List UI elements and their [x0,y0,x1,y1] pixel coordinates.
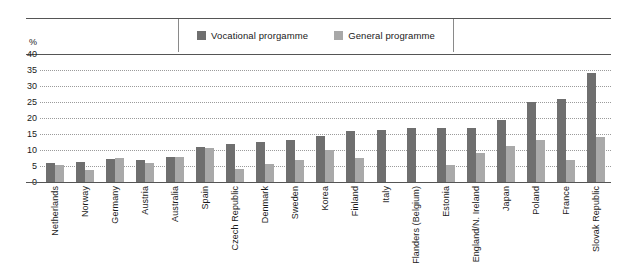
bar-general [175,157,184,182]
x-axis-label: Italy [381,186,390,203]
x-axis-label: Finland [351,186,360,216]
x-axis-label: Austria [141,186,150,215]
bar-vocational [286,140,295,182]
x-label-cell: Italy [371,184,401,276]
bar-general [145,163,154,182]
bar-general [355,158,364,182]
x-label-cell: England/N. Ireland [461,184,491,276]
legend-item-general: General programme [334,30,435,41]
x-axis-label: Czech Republic [231,186,240,250]
y-tick-label-10: 10 [27,146,37,155]
bar-general [506,146,515,182]
bar-general [55,165,64,182]
x-label-cell: Japan [491,184,521,276]
bar-group [130,54,160,182]
x-axis-label: Germany [111,186,120,224]
bar-general [536,140,545,182]
bar-vocational [467,128,476,182]
bar-general [115,158,124,182]
legend-item-vocational: Vocational prorgamme [197,30,308,41]
bar-general [205,148,214,182]
x-label-cell: Spain [190,184,220,276]
bar-series-area [40,54,611,182]
x-label-cell: Estonia [431,184,461,276]
bar-group [491,54,521,182]
x-axis-label: Flanders (Belgium) [411,186,420,264]
bar-vocational [196,147,205,182]
x-axis-label: Sweden [291,186,300,219]
plot-baseline [26,182,611,183]
bar-group [371,54,401,182]
bar-vocational [497,120,506,182]
x-axis-label: Korea [321,186,330,211]
x-label-cell: Netherlands [40,184,70,276]
bar-group [40,54,70,182]
legend-label-vocational: Vocational prorgamme [211,30,308,41]
x-axis-label: Japan [501,186,510,211]
x-label-cell: Czech Republic [220,184,250,276]
bar-group [461,54,491,182]
bar-general [566,160,575,182]
legend-label-general: General programme [348,30,435,41]
bar-general [325,150,334,182]
x-axis-label: Denmark [261,186,270,223]
chart-legend: Vocational prorgamme General programme [178,19,454,52]
x-label-cell: Germany [100,184,130,276]
bar-vocational [377,130,386,182]
bar-vocational [226,144,235,182]
bar-group [551,54,581,182]
bar-vocational [437,128,446,182]
y-axis: % 4035302520151050 [18,38,40,188]
legend-swatch-general-icon [334,31,343,40]
x-label-cell: Denmark [250,184,280,276]
y-tick-label-5: 5 [32,162,37,171]
y-tick-label-35: 35 [27,66,37,75]
x-axis-label: Netherlands [51,186,60,236]
y-axis-unit-label: % [29,38,37,47]
x-axis-label: France [561,186,570,215]
bar-vocational [316,136,325,182]
bar-vocational [106,159,115,182]
x-label-cell: Flanders (Belgium) [401,184,431,276]
bar-group [100,54,130,182]
bar-vocational [346,131,355,182]
y-tick-label-20: 20 [27,114,37,123]
bar-group [280,54,310,182]
bar-vocational [76,162,85,182]
bar-general [446,165,455,182]
x-axis-label: Australia [171,186,180,222]
bar-group [70,54,100,182]
x-label-cell: Austria [130,184,160,276]
x-axis-label: Spain [201,186,210,210]
bar-general [235,169,244,182]
x-axis-labels: NetherlandsNorwayGermanyAustriaAustralia… [40,184,611,276]
bar-vocational [166,157,175,182]
bar-vocational [407,128,416,182]
x-axis-label: Norway [81,186,90,217]
bar-group [310,54,340,182]
bar-vocational [587,73,596,182]
bar-group [340,54,370,182]
bar-general [596,137,605,182]
x-label-cell: France [551,184,581,276]
bar-group [220,54,250,182]
chart-figure: Vocational prorgamme General programme %… [0,0,617,277]
bar-group [521,54,551,182]
bar-group [431,54,461,182]
y-tick-label-15: 15 [27,130,37,139]
bar-vocational [527,102,536,182]
x-label-cell: Norway [70,184,100,276]
x-axis-label: Estonia [441,186,450,217]
x-label-cell: Slovak Republic [581,184,611,276]
x-label-cell: Poland [521,184,551,276]
y-tick-label-40: 40 [27,50,37,59]
bar-vocational [557,99,566,182]
bar-general [85,170,94,182]
x-label-cell: Australia [160,184,190,276]
y-tick-label-25: 25 [27,98,37,107]
x-label-cell: Korea [310,184,340,276]
x-label-cell: Sweden [280,184,310,276]
bar-vocational [256,142,265,182]
x-axis-label: England/N. Ireland [471,186,480,262]
bar-vocational [136,160,145,182]
